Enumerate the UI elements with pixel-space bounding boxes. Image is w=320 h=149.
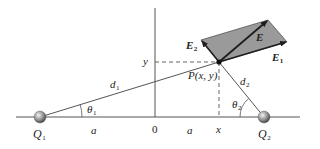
- label-d1: d1: [110, 79, 120, 92]
- label-theta2: θ2: [232, 99, 241, 112]
- point-p-dot: [216, 59, 221, 64]
- label-e-resultant: E: [256, 32, 263, 43]
- label-point-p: P(x, y): [188, 70, 217, 81]
- label-x-tick: x: [216, 124, 221, 135]
- label-a-right: a: [187, 125, 193, 136]
- theta1-arc: [80, 105, 82, 117]
- label-e1: E1: [272, 52, 283, 65]
- label-y-tick: y: [143, 56, 148, 67]
- label-e2: E2: [186, 40, 197, 53]
- label-a-left: a: [91, 125, 97, 136]
- label-origin: 0: [152, 124, 158, 135]
- label-d2: d2: [240, 76, 250, 89]
- label-theta1: θ1: [87, 104, 96, 117]
- label-q1: Q1: [33, 128, 46, 142]
- charge-q2: [258, 111, 270, 123]
- label-q2: Q2: [258, 128, 271, 142]
- charge-q1: [34, 111, 46, 123]
